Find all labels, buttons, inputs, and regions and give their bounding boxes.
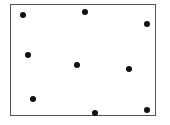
- dot-3: [144, 21, 150, 27]
- dot-9: [144, 107, 150, 113]
- dot-4: [25, 52, 31, 58]
- dot-7: [30, 96, 36, 102]
- dot-2: [82, 9, 88, 15]
- dot-5: [74, 62, 80, 68]
- dot-6: [126, 66, 132, 72]
- dot-1: [20, 12, 26, 18]
- dot-8: [92, 110, 98, 116]
